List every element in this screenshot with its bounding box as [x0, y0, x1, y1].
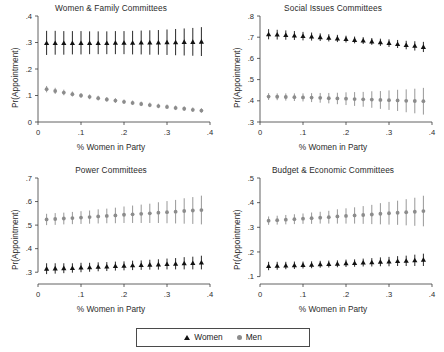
svg-text:0: 0 — [28, 118, 32, 127]
plot-area: .3.4.5.6.7.80.1.2.3.4 — [222, 0, 444, 158]
svg-text:.6: .6 — [248, 54, 254, 63]
svg-text:.3: .3 — [26, 268, 32, 277]
svg-text:.2: .2 — [343, 128, 349, 137]
x-axis-label: % Women in Party — [222, 304, 444, 314]
svg-text:.2: .2 — [121, 128, 127, 137]
svg-text:.4: .4 — [429, 290, 435, 299]
svg-text:.5: .5 — [248, 174, 254, 183]
plot-area: 0.1.2.3.40.1.2.3.4 — [0, 0, 222, 158]
svg-text:.1: .1 — [300, 290, 306, 299]
x-axis-label: % Women in Party — [0, 304, 222, 314]
svg-text:.3: .3 — [164, 290, 170, 299]
svg-text:.1: .1 — [78, 128, 84, 137]
svg-text:0: 0 — [36, 290, 40, 299]
panel-women-family: Women & Family Committees 0.1.2.3.40.1.2… — [0, 0, 222, 158]
svg-text:.6: .6 — [26, 197, 32, 206]
svg-text:.3: .3 — [386, 128, 392, 137]
y-axis-label: Pr(Appointment) — [232, 48, 242, 108]
triangle-marker-icon — [184, 335, 190, 340]
legend-label-women: Women — [194, 333, 222, 341]
svg-text:.3: .3 — [248, 118, 254, 127]
panel-budget-economic: Budget & Economic Committees .1.2.3.4.50… — [222, 162, 444, 320]
svg-text:.7: .7 — [26, 174, 32, 183]
svg-text:.3: .3 — [26, 38, 32, 47]
series-women — [266, 29, 426, 52]
y-axis-label: Pr(Appointment) — [10, 210, 20, 270]
svg-text:.1: .1 — [248, 272, 254, 281]
legend-entry-women: Women — [184, 333, 222, 341]
legend-label-men: Men — [246, 333, 262, 341]
svg-text:.4: .4 — [207, 290, 213, 299]
svg-text:.1: .1 — [300, 128, 306, 137]
svg-text:.4: .4 — [26, 244, 32, 253]
series-men — [267, 88, 426, 115]
svg-text:.3: .3 — [164, 128, 170, 137]
svg-text:.1: .1 — [26, 91, 32, 100]
svg-text:.2: .2 — [26, 65, 32, 74]
svg-text:.2: .2 — [121, 290, 127, 299]
x-axis-label: % Women in Party — [222, 142, 444, 152]
x-axis-label: % Women in Party — [0, 142, 222, 152]
y-axis-label: Pr(Appointment) — [232, 210, 242, 270]
svg-text:.5: .5 — [26, 221, 32, 230]
svg-text:.4: .4 — [248, 96, 254, 105]
svg-text:0: 0 — [258, 128, 262, 137]
series-women — [44, 27, 204, 56]
svg-text:.5: .5 — [248, 75, 254, 84]
svg-text:0: 0 — [258, 290, 262, 299]
svg-text:0: 0 — [36, 128, 40, 137]
series-men — [45, 86, 204, 113]
series-women — [266, 254, 426, 271]
svg-text:.4: .4 — [26, 12, 32, 21]
svg-text:.4: .4 — [429, 128, 435, 137]
svg-text:.3: .3 — [248, 223, 254, 232]
y-axis-label: Pr(Appointment) — [10, 48, 20, 108]
svg-text:.4: .4 — [248, 198, 254, 207]
circle-marker-icon — [237, 335, 242, 340]
legend: Women Men — [136, 328, 310, 347]
series-women — [44, 256, 204, 274]
legend-entry-men: Men — [237, 333, 262, 341]
svg-text:.2: .2 — [248, 248, 254, 257]
svg-text:.4: .4 — [207, 128, 213, 137]
svg-text:.8: .8 — [248, 12, 254, 21]
svg-text:.3: .3 — [386, 290, 392, 299]
svg-text:.7: .7 — [248, 33, 254, 42]
svg-text:.1: .1 — [78, 290, 84, 299]
plot-area: .1.2.3.4.50.1.2.3.4 — [222, 162, 444, 320]
figure-panel-grid: Women & Family Committees 0.1.2.3.40.1.2… — [0, 0, 444, 352]
series-men — [267, 196, 426, 227]
plot-area: .3.4.5.6.70.1.2.3.4 — [0, 162, 222, 320]
series-men — [45, 196, 204, 225]
svg-text:.2: .2 — [343, 290, 349, 299]
panel-social-issues: Social Issues Committees .3.4.5.6.7.80.1… — [222, 0, 444, 158]
panel-power: Power Committees .3.4.5.6.70.1.2.3.4 % W… — [0, 162, 222, 320]
